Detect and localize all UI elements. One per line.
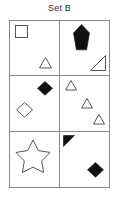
diamond-filled-tall-icon (73, 24, 90, 50)
diamond-filled-icon (87, 162, 104, 178)
triangle-outline-icon (93, 114, 105, 125)
grid-cell-2 (60, 21, 110, 76)
figure-title: Set B (0, 3, 119, 14)
star-outline-icon (15, 140, 51, 176)
grid-cell-3 (10, 76, 60, 131)
shape-grid (9, 20, 110, 188)
diamond-filled-icon (37, 81, 53, 96)
grid-cell-6 (60, 132, 110, 187)
right-triangle-filled-icon (63, 135, 75, 147)
right-triangle-outline-icon (90, 55, 106, 71)
triangle-outline-icon (39, 57, 52, 68)
grid-cell-1 (10, 21, 60, 76)
grid-cell-5 (10, 132, 60, 187)
grid-cell-4 (60, 76, 110, 131)
triangle-outline-icon (65, 80, 77, 91)
diamond-outline-icon (16, 102, 33, 118)
square-outline-icon (15, 25, 28, 38)
triangle-outline-icon (81, 98, 93, 109)
set-b-figure: Set B (0, 0, 119, 197)
